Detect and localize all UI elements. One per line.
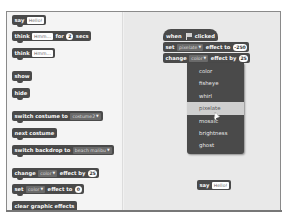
set-effect-block[interactable]: set color ▼ effect to 0 — [12, 184, 84, 194]
costume-dropdown[interactable]: costume2 ▼ — [70, 113, 100, 120]
backdrop-dropdown[interactable]: beach malibu ▼ — [73, 147, 112, 154]
block-label: clicked — [195, 33, 215, 39]
dropdown-value: costume2 — [72, 113, 95, 120]
say-block[interactable]: say Hello! — [12, 15, 46, 25]
block-label: think — [14, 50, 30, 56]
block-label: next costume — [14, 130, 55, 136]
block-label: change — [14, 170, 36, 176]
block-label: set — [14, 186, 24, 192]
menu-item-fisheye[interactable]: fisheye — [187, 77, 244, 89]
effect-dropdown[interactable]: color ▼ — [26, 186, 45, 193]
green-flag-icon — [185, 33, 192, 40]
secs-number-input[interactable]: 2 — [66, 33, 73, 40]
effect-dropdown[interactable]: color ▼ — [38, 170, 57, 177]
dropdown-value: color — [191, 55, 202, 62]
effect-value-input[interactable]: -250 — [233, 44, 248, 51]
block-label: effect to — [47, 186, 73, 192]
clear-graphic-effects-block[interactable]: clear graphic effects — [12, 201, 77, 210]
effect-dropdown[interactable]: color ▼ — [189, 55, 208, 62]
block-label: when — [166, 33, 182, 39]
next-costume-block[interactable]: next costume — [12, 128, 57, 138]
say-text-input[interactable]: Hello! — [27, 17, 45, 24]
loose-say-block[interactable]: say Hello! — [197, 180, 231, 190]
block-label: think — [14, 33, 30, 39]
change-effect-script-block[interactable]: change color ▼ effect by 25 — [163, 53, 250, 63]
block-label: set — [165, 44, 175, 50]
block-label: change — [165, 55, 187, 61]
menu-item-color[interactable]: color — [187, 65, 244, 77]
dropdown-value: pixelate — [179, 44, 197, 51]
say-text-input[interactable]: Hello! — [212, 182, 230, 189]
dropdown-arrow-icon: ▼ — [198, 44, 201, 51]
think-for-secs-block[interactable]: think Hmm... for 2 secs — [12, 31, 91, 41]
menu-item-whirl[interactable]: whirl — [187, 90, 244, 102]
block-label: say — [14, 17, 25, 23]
switch-costume-block[interactable]: switch costume to costume2 ▼ — [12, 111, 103, 121]
switch-backdrop-block[interactable]: switch backdrop to beach malibu ▼ — [12, 145, 114, 155]
think-text-input[interactable]: Hmm... — [32, 33, 53, 40]
block-label: effect by — [59, 170, 86, 176]
block-label: hide — [14, 90, 28, 96]
effect-amount-input[interactable]: 25 — [88, 170, 97, 177]
effect-dropdown[interactable]: pixelate ▼ — [177, 44, 203, 51]
dropdown-arrow-icon: ▼ — [96, 113, 99, 120]
block-label: say — [199, 182, 210, 188]
effect-dropdown-menu[interactable]: color fisheye whirl pixelate mosaic brig… — [187, 63, 244, 154]
dropdown-arrow-icon: ▼ — [204, 55, 207, 62]
block-label: show — [14, 73, 30, 79]
block-label: for — [55, 33, 64, 39]
dropdown-arrow-icon: ▼ — [40, 186, 43, 193]
effect-amount-input[interactable]: 25 — [239, 55, 248, 62]
set-effect-script-block[interactable]: set pixelate ▼ effect to -250 — [163, 42, 249, 52]
dropdown-arrow-icon: ▼ — [107, 147, 110, 154]
block-label: effect to — [205, 44, 231, 50]
dropdown-value: color — [28, 186, 39, 193]
block-label: effect by — [210, 55, 237, 61]
block-label: clear graphic effects — [14, 203, 75, 209]
dropdown-value: color — [40, 170, 51, 177]
block-label: switch costume to — [14, 113, 68, 119]
change-effect-block[interactable]: change color ▼ effect by 25 — [12, 168, 99, 178]
show-block[interactable]: show — [12, 71, 32, 81]
menu-item-brightness[interactable]: brightness — [187, 127, 244, 139]
dropdown-arrow-icon: ▼ — [53, 170, 56, 177]
hide-block[interactable]: hide — [12, 88, 30, 98]
think-text-input[interactable]: Hmm... — [32, 50, 53, 57]
when-flag-clicked-hat-block[interactable]: when clicked — [163, 29, 218, 41]
bottom-border — [6, 210, 282, 212]
menu-item-ghost[interactable]: ghost — [187, 139, 244, 151]
dropdown-value: beach malibu — [75, 147, 106, 154]
effect-value-input[interactable]: 0 — [75, 186, 82, 193]
block-label: secs — [75, 33, 89, 39]
think-block[interactable]: think Hmm... — [12, 48, 55, 58]
block-label: switch backdrop to — [14, 147, 71, 153]
